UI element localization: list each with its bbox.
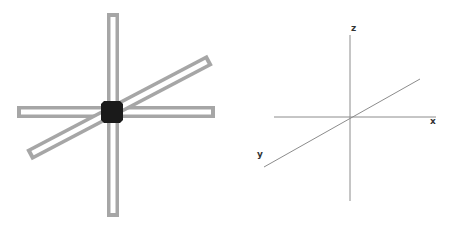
x-axis: x	[274, 116, 436, 126]
central-cube	[101, 101, 123, 123]
y-axis-label: y	[257, 149, 263, 159]
bar-cross-diagram	[17, 13, 215, 217]
z-axis: z	[350, 23, 356, 201]
x-axis-label: x	[430, 116, 436, 126]
y-axis: y	[257, 79, 420, 167]
figure-canvas: zxy	[0, 0, 449, 228]
coordinate-axes-diagram: zxy	[257, 23, 436, 201]
z-axis-label: z	[351, 23, 356, 33]
